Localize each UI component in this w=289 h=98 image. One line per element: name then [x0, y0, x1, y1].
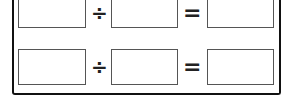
- equals-sign: =: [183, 2, 199, 24]
- dividend-box-1[interactable]: [18, 0, 86, 28]
- equals-sign: =: [183, 56, 199, 78]
- quotient-box-1[interactable]: [207, 0, 274, 28]
- divide-sign: ÷: [91, 57, 105, 77]
- divide-sign: ÷: [91, 3, 105, 23]
- divisor-box-2[interactable]: [111, 49, 178, 85]
- divisor-box-1[interactable]: [111, 0, 178, 28]
- quotient-box-2[interactable]: [207, 49, 274, 85]
- dividend-box-2[interactable]: [18, 49, 86, 85]
